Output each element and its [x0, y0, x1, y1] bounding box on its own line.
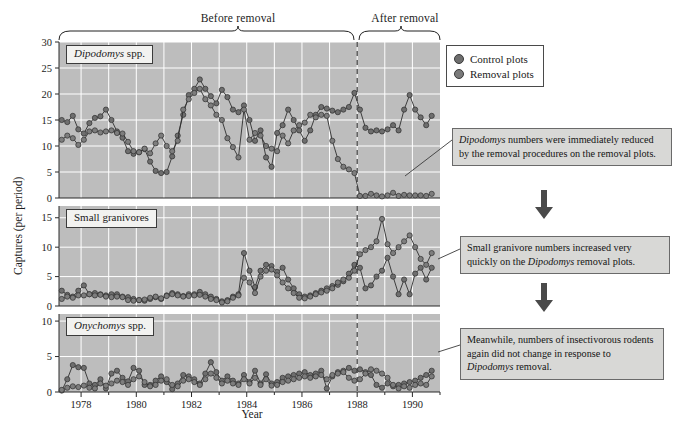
annotation-onychomys: Meanwhile, numbers of insectivorous rode…: [460, 328, 664, 380]
annotation-dipodomys: Dipodomys numbers were immediately reduc…: [452, 128, 672, 166]
annotation-onychomys-text-1: Meanwhile, numbers of insectivorous rode…: [467, 334, 653, 359]
annotation-onychomys-genus: Dipodomys: [467, 361, 513, 372]
arrow-down-2-icon: [534, 283, 554, 313]
arrow-down-1-icon: [534, 190, 554, 220]
annotation-dipodomys-genus: Dipodomys: [459, 134, 505, 145]
figure-root: Before removal After removal Captures (p…: [0, 0, 676, 430]
annotation-granivore: Small granivore numbers increased very q…: [460, 236, 670, 274]
annotation-granivore-genus: Dipodomys: [528, 256, 574, 267]
annotation-onychomys-text-2: removal.: [513, 361, 551, 372]
annotation-granivore-text-2: removal plots.: [574, 256, 635, 267]
